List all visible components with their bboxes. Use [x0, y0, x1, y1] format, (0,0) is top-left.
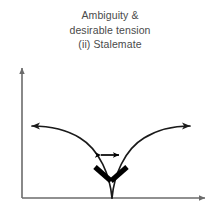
figure-container: Ambiguity & desirable tension (ii) Stale… [0, 0, 220, 214]
stalemate-diagram [0, 0, 220, 214]
blocked-left-marker-icon [95, 167, 111, 181]
left-trajectory-curve [32, 126, 112, 198]
right-trajectory-curve [112, 126, 190, 198]
